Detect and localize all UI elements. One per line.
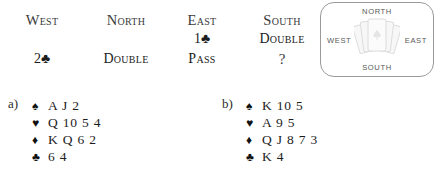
auction-table: West North East South 1♣ Double 2♣ Doubl… <box>0 0 320 78</box>
compass-label-east: EAST <box>405 35 427 44</box>
compass-label-west: WEST <box>327 35 351 44</box>
auction-header-south: South <box>240 10 324 30</box>
hand-suit-row: ♠K 10 5 <box>246 96 318 113</box>
hand-a-spades: A J 2 <box>48 98 80 113</box>
bid-north-2: Double <box>84 49 168 69</box>
bid-south-2-prompt: ? <box>240 49 324 69</box>
bid-east-2: Pass <box>160 49 244 69</box>
hand-b-hearts: A 9 5 <box>262 115 295 130</box>
hand-b-suit-rows: ♠K 10 5 ♥A 9 5 ♦Q J 8 7 3 ♣K 4 <box>246 96 318 164</box>
hand-suit-row: ♦K Q 6 2 <box>32 130 101 147</box>
hand-suit-row: ♥Q 10 5 4 <box>32 113 101 130</box>
auction-header-west: West <box>0 10 84 30</box>
hand-a-label: a) <box>8 96 18 112</box>
club-icon: ♣ <box>32 149 48 166</box>
compass-label-north: NORTH <box>321 7 433 16</box>
hand-suit-row: ♣K 4 <box>246 147 318 164</box>
fanned-cards-icon <box>354 14 400 66</box>
hand-a-suit-rows: ♠A J 2 ♥Q 10 5 4 ♦K Q 6 2 ♣6 4 <box>32 96 101 164</box>
bid-west-2: 2♣ <box>0 49 84 69</box>
hand-b-clubs: K 4 <box>262 149 284 164</box>
auction-bid-row: 1♣ Double <box>0 29 320 49</box>
hand-b-label: b) <box>222 96 233 112</box>
hand-a-clubs: 6 4 <box>48 149 67 164</box>
hand-suit-row: ♠A J 2 <box>32 96 101 113</box>
hand-suit-row: ♣6 4 <box>32 147 101 164</box>
auction-header-row: West North East South <box>0 10 320 30</box>
hand-b-spades: K 10 5 <box>262 98 304 113</box>
hand-b-diamonds: Q J 8 7 3 <box>262 132 318 147</box>
auction-header-east: East <box>160 10 244 30</box>
auction-bid-row: 2♣ Double Pass ? <box>0 49 320 69</box>
bridge-bidding-problem: West North East South 1♣ Double 2♣ Doubl… <box>0 0 437 175</box>
bid-south-1: Double <box>240 29 324 49</box>
hand-suit-row: ♦Q J 8 7 3 <box>246 130 318 147</box>
hand-a-hearts: Q 10 5 4 <box>48 115 101 130</box>
bid-east-1: 1♣ <box>160 29 244 49</box>
hand-suit-row: ♥A 9 5 <box>246 113 318 130</box>
compass-diagram: NORTH WEST EAST SOUTH <box>320 2 434 77</box>
auction-header-north: North <box>84 10 168 30</box>
club-icon: ♣ <box>246 149 262 166</box>
compass-label-south: SOUTH <box>321 63 433 72</box>
hand-a-diamonds: K Q 6 2 <box>48 132 97 147</box>
